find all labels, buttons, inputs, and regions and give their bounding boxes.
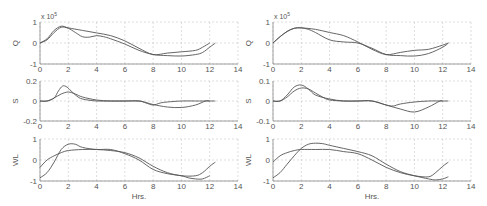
y-tick-label: -1 [30, 60, 38, 69]
x-tick-label: 2 [66, 182, 71, 191]
y-tick-label: 0.1 [259, 77, 271, 86]
x-tick-label: 2 [66, 122, 71, 131]
exponent-label: x 105 [41, 11, 57, 20]
series-line-simulated [40, 149, 215, 176]
x-tick-label: 6 [123, 122, 128, 131]
x-tick-label: 12 [438, 182, 447, 191]
x-tick-label: 4 [327, 65, 332, 74]
y-tick-label: -1 [263, 60, 271, 69]
y-tick-label: 0.2 [26, 77, 38, 86]
x-tick-label: 2 [299, 65, 304, 74]
y-tick-label: 1 [33, 135, 38, 144]
x-tick-label: 0 [38, 65, 43, 74]
x-tick-label: 0 [38, 182, 43, 191]
x-tick-label: 10 [410, 122, 419, 131]
x-tick-label: 2 [299, 182, 304, 191]
x-tick-label: 14 [467, 122, 476, 131]
x-tick-label: 14 [234, 65, 243, 74]
x-tick-label: 0 [271, 122, 276, 131]
series-line-observed [40, 27, 215, 56]
x-tick-label: 8 [151, 65, 156, 74]
x-tick-label: 12 [205, 65, 214, 74]
y-tick-label: 0 [266, 39, 271, 48]
y-tick-label: -1 [30, 177, 38, 186]
x-axis-label: Hrs. [132, 192, 147, 201]
x-tick-label: 8 [151, 122, 156, 131]
x-tick-label: 14 [234, 182, 243, 191]
y-tick-label: 0 [33, 97, 38, 106]
y-axis-label: S [11, 98, 20, 103]
x-tick-label: 4 [327, 182, 332, 191]
y-axis-label: Q [11, 40, 20, 46]
series-line-simulated [273, 149, 448, 177]
x-tick-label: 0 [271, 65, 276, 74]
subplot-right-q: 02468101214-101Qx 105 [244, 11, 476, 74]
x-tick-label: 6 [356, 182, 361, 191]
y-axis-label: WL [244, 153, 253, 166]
y-axis-label: WL [11, 153, 20, 166]
y-axis-label: S [244, 98, 253, 103]
y-axis-label: Q [244, 40, 253, 46]
x-axis-label: Hrs. [365, 192, 380, 201]
exponent-label: x 105 [274, 11, 290, 20]
x-tick-label: 12 [438, 122, 447, 131]
y-tick-label: 1 [266, 18, 271, 27]
y-tick-label: 0 [266, 97, 271, 106]
subplot-left-s: 02468101214-0.200.2S [11, 77, 243, 131]
x-tick-label: 12 [438, 65, 447, 74]
x-tick-label: 0 [271, 182, 276, 191]
x-tick-label: 4 [327, 122, 332, 131]
series-line-observed [273, 28, 448, 56]
series-line-simulated [273, 88, 443, 112]
x-tick-label: 6 [123, 182, 128, 191]
series-line-observed [273, 143, 448, 180]
figure: 02468101214-101Qx 10502468101214-0.200.2… [0, 0, 487, 206]
x-tick-label: 8 [151, 182, 156, 191]
series-line-observed [40, 144, 210, 179]
x-tick-label: 10 [177, 182, 186, 191]
series-line-simulated [273, 28, 448, 55]
x-tick-label: 8 [384, 122, 389, 131]
subplot-right-wl: 02468101214-101WLHrs. [244, 135, 476, 201]
x-tick-label: 0 [38, 122, 43, 131]
x-tick-label: 2 [299, 122, 304, 131]
x-tick-label: 8 [384, 182, 389, 191]
x-tick-label: 6 [356, 122, 361, 131]
subplot-right-s: 02468101214-0.100.1S [244, 77, 476, 131]
subplot-left-q: 02468101214-101Qx 105 [11, 11, 243, 74]
y-tick-label: 0 [33, 39, 38, 48]
y-tick-label: 1 [266, 135, 271, 144]
y-tick-label: -0.1 [256, 117, 270, 126]
x-tick-label: 10 [410, 65, 419, 74]
x-tick-label: 4 [94, 122, 99, 131]
series-line-observed [40, 86, 215, 105]
subplot-left-wl: 02468101214-101WLHrs. [11, 135, 243, 201]
y-tick-label: 0 [33, 156, 38, 165]
x-tick-label: 12 [205, 122, 214, 131]
x-tick-label: 10 [410, 182, 419, 191]
y-tick-label: -0.2 [23, 117, 37, 126]
x-tick-label: 6 [356, 65, 361, 74]
y-tick-label: 1 [33, 18, 38, 27]
x-tick-label: 14 [467, 182, 476, 191]
x-tick-label: 10 [177, 65, 186, 74]
x-tick-label: 4 [94, 65, 99, 74]
x-tick-label: 8 [384, 65, 389, 74]
y-tick-label: -1 [263, 177, 271, 186]
x-tick-label: 14 [467, 65, 476, 74]
x-tick-label: 14 [234, 122, 243, 131]
y-tick-label: 0 [266, 156, 271, 165]
chart-canvas: 02468101214-101Qx 10502468101214-0.200.2… [0, 0, 487, 206]
x-tick-label: 12 [205, 182, 214, 191]
x-tick-label: 10 [177, 122, 186, 131]
x-tick-label: 6 [123, 65, 128, 74]
x-tick-label: 4 [94, 182, 99, 191]
x-tick-label: 2 [66, 65, 71, 74]
